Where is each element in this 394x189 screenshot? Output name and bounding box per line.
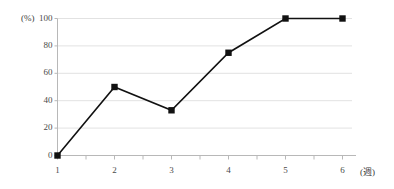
data-point-marker [282,15,288,21]
y-tick-label: 60 [44,67,53,77]
tick-marks-group [55,19,343,160]
data-series-group [58,19,343,156]
axis-lines-group [58,19,357,156]
x-axis-unit-label: (週) [360,165,375,178]
y-tick-label: 80 [44,40,53,50]
line-chart: (%) (週) 020406080100 123456 [0,0,394,189]
data-point-marker [225,50,231,56]
y-tick-label: 20 [44,122,53,132]
data-point-marker [339,15,345,21]
y-tick-label: 0 [48,150,53,160]
data-markers-group [54,15,345,158]
data-point-marker [54,152,60,158]
x-tick-label: 5 [271,165,301,175]
x-tick-label: 1 [43,165,73,175]
x-tick-label: 6 [328,165,358,175]
x-tick-label: 4 [214,165,244,175]
series-line [58,19,343,156]
x-tick-label: 3 [157,165,187,175]
y-axis-unit-label: (%) [21,13,35,23]
gridlines-group [58,19,353,129]
data-point-marker [168,107,174,113]
y-tick-label: 100 [39,13,53,23]
data-point-marker [111,84,117,90]
y-tick-label: 40 [44,95,53,105]
x-tick-label: 2 [100,165,130,175]
chart-plot-area [0,0,394,189]
